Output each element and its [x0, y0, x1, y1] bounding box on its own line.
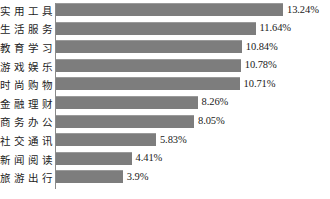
- bar-row: 生活服务11.64%: [0, 21, 330, 40]
- bar-track: 3.9%: [56, 170, 330, 183]
- bar[interactable]: [56, 22, 256, 35]
- category-label: 旅游出行: [0, 172, 53, 185]
- bar-row: 商务办公8.05%: [0, 114, 330, 133]
- bar[interactable]: [56, 133, 156, 146]
- bar-value-label: 8.26%: [202, 95, 229, 108]
- bar[interactable]: [56, 77, 240, 90]
- bar-value-label: 10.84%: [246, 40, 278, 53]
- horizontal-bar-chart: 实用工具13.24%生活服务11.64%教育学习10.84%游戏娱乐10.78%…: [0, 0, 330, 199]
- bar-value-label: 10.71%: [244, 77, 276, 90]
- bar-row: 旅游出行3.9%: [0, 169, 330, 188]
- category-label: 时尚购物: [0, 79, 53, 92]
- bar-track: 11.64%: [56, 22, 330, 35]
- category-label: 实用工具: [0, 5, 53, 18]
- bar-row: 游戏娱乐10.78%: [0, 58, 330, 77]
- bar-track: 8.26%: [56, 96, 330, 109]
- bar[interactable]: [56, 59, 241, 72]
- bar-track: 5.83%: [56, 133, 330, 146]
- bar[interactable]: [56, 96, 198, 109]
- bar-track: 13.24%: [56, 3, 330, 16]
- bar-value-label: 11.64%: [260, 21, 291, 34]
- bar-list: 实用工具13.24%生活服务11.64%教育学习10.84%游戏娱乐10.78%…: [0, 2, 330, 188]
- bar-value-label: 13.24%: [287, 3, 319, 16]
- category-label: 社交通讯: [0, 135, 53, 148]
- plot-area: 实用工具13.24%生活服务11.64%教育学习10.84%游戏娱乐10.78%…: [0, 2, 330, 197]
- bar-value-label: 4.41%: [136, 151, 163, 164]
- bar-value-label: 8.05%: [198, 114, 225, 127]
- bar-value-label: 5.83%: [160, 133, 187, 146]
- bar-value-label: 3.9%: [127, 170, 148, 183]
- bar[interactable]: [56, 115, 194, 128]
- bar-track: 8.05%: [56, 115, 330, 128]
- bar-row: 实用工具13.24%: [0, 2, 330, 21]
- bar-track: 10.84%: [56, 40, 330, 53]
- bar-track: 10.78%: [56, 59, 330, 72]
- category-label: 教育学习: [0, 42, 53, 55]
- category-label: 生活服务: [0, 23, 53, 36]
- bar-row: 新闻阅读4.41%: [0, 151, 330, 170]
- bar-track: 10.71%: [56, 77, 330, 90]
- bar[interactable]: [56, 152, 132, 165]
- bar[interactable]: [56, 170, 123, 183]
- category-label: 商务办公: [0, 116, 53, 129]
- bar-row: 社交通讯5.83%: [0, 132, 330, 151]
- bar[interactable]: [56, 40, 242, 53]
- bar-row: 金融理财8.26%: [0, 95, 330, 114]
- bar[interactable]: [56, 3, 283, 16]
- category-label: 金融理财: [0, 98, 53, 111]
- bar-track: 4.41%: [56, 152, 330, 165]
- bar-row: 时尚购物10.71%: [0, 76, 330, 95]
- category-label: 游戏娱乐: [0, 61, 53, 74]
- bar-row: 教育学习10.84%: [0, 39, 330, 58]
- category-label: 新闻阅读: [0, 154, 53, 167]
- bar-value-label: 10.78%: [245, 58, 277, 71]
